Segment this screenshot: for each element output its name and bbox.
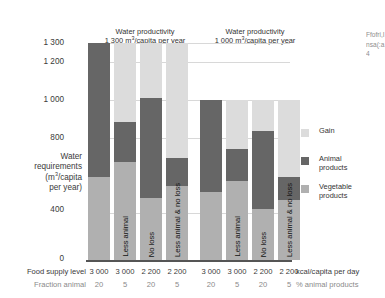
segment-animal xyxy=(88,43,110,177)
cell-food-g1b1: 3 000 xyxy=(86,267,112,276)
segment-animal xyxy=(200,100,222,192)
cell-frac-g1b4: 5 xyxy=(164,280,190,289)
y-tick-1300: 1 300 xyxy=(24,38,64,47)
y-tick-800: 800 xyxy=(24,133,64,142)
group-2-title-line1: Water productivity xyxy=(226,27,285,36)
segment-gain xyxy=(278,100,300,177)
cell-food-g1b3: 2 200 xyxy=(138,267,164,276)
x-axis-line xyxy=(86,260,292,262)
animal-swatch xyxy=(301,157,309,165)
segment-vegetable xyxy=(114,162,136,260)
cell-frac-g2b1: 20 xyxy=(198,280,224,289)
group-1-title-line1: Water productivity xyxy=(116,27,175,36)
legend-item-animal[interactable]: Animalproducts xyxy=(301,156,379,175)
cell-food-g2b1: 3 000 xyxy=(198,267,224,276)
segment-animal xyxy=(278,177,300,200)
plot-area: Less animal No loss Less animal & no los… xyxy=(88,43,290,260)
segment-gain xyxy=(140,43,162,98)
legend-item-vegetable[interactable]: Vegetableproducts xyxy=(301,184,379,203)
segment-animal xyxy=(166,158,188,186)
y-axis-title: Water requirements (m3/capita per year) xyxy=(8,152,82,194)
segment-gain xyxy=(252,100,274,131)
segment-vegetable xyxy=(226,181,248,260)
row-unit-food-supply: kcal/capita per day xyxy=(296,267,359,276)
cell-frac-g1b1: 20 xyxy=(86,280,112,289)
segment-animal xyxy=(226,149,248,181)
row-label-fraction-animal: Fraction animal xyxy=(4,280,86,289)
y-tick-1000: 1 000 xyxy=(24,95,64,104)
segment-vegetable xyxy=(278,200,300,260)
row-label-food-supply: Food supply level xyxy=(4,267,86,276)
y-axis-title-line2: requirements xyxy=(8,162,82,172)
vegetable-swatch xyxy=(301,185,309,193)
cell-food-g2b3: 2 200 xyxy=(250,267,276,276)
y-tick-400: 400 xyxy=(24,205,64,214)
figure: Water productivity 1 300 m3/capita per y… xyxy=(0,0,385,298)
cell-food-g1b4: 2 200 xyxy=(164,267,190,276)
cell-frac-g2b2: 5 xyxy=(224,280,250,289)
gain-swatch xyxy=(301,129,309,137)
cell-frac-g2b3: 20 xyxy=(250,280,276,289)
legend-label-gain: Gain xyxy=(319,127,335,136)
segment-vegetable xyxy=(200,192,222,260)
segment-animal xyxy=(252,131,274,209)
segment-gain xyxy=(226,100,248,149)
y-tick-1200: 1 200 xyxy=(24,57,64,66)
legend-label-vegetable: Vegetableproducts xyxy=(319,183,352,200)
y-axis-title-line1: Water xyxy=(8,152,82,162)
cell-food-g2b2: 3 000 xyxy=(224,267,250,276)
legend-label-animal: Animalproducts xyxy=(319,155,347,172)
segment-gain xyxy=(166,43,188,158)
segment-vegetable xyxy=(252,209,274,260)
segment-animal xyxy=(140,98,162,198)
y-tick-0: 0 xyxy=(24,254,64,263)
figure-caption-clipped: Ffofri,Insa(:a4 xyxy=(366,30,385,148)
segment-vegetable xyxy=(166,186,188,260)
cell-frac-g1b2: 5 xyxy=(112,280,138,289)
y-axis-title-line3: (m3/capita xyxy=(8,173,82,183)
segment-vegetable xyxy=(88,177,110,260)
row-unit-fraction-animal: % animal products xyxy=(296,280,358,289)
segment-gain xyxy=(114,43,136,122)
segment-vegetable xyxy=(140,198,162,260)
cell-food-g1b2: 3 000 xyxy=(112,267,138,276)
cell-frac-g1b3: 20 xyxy=(138,280,164,289)
y-axis-title-line4: per year) xyxy=(8,183,82,193)
segment-animal xyxy=(114,122,136,162)
